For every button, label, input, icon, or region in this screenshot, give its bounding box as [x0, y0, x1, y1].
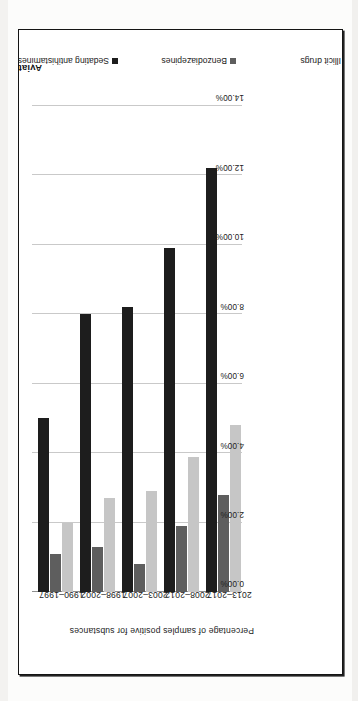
bar: [122, 307, 133, 592]
bar: [230, 425, 241, 592]
plot-area: [32, 106, 242, 592]
legend-swatch-icon: [112, 58, 118, 64]
value-axis-tick-label: 8.00%: [220, 302, 244, 311]
bar-group: [32, 106, 74, 592]
value-axis-tick-label: 10.00%: [215, 232, 243, 241]
legend-item[interactable]: Illicit drugs: [300, 56, 341, 66]
bar: [80, 314, 91, 592]
page-edge-left: [0, 0, 8, 701]
bar-group: [158, 106, 200, 592]
bar: [176, 526, 187, 592]
bar: [62, 523, 73, 592]
bar-group: [116, 106, 158, 592]
category-axis-label: 1998–2002: [81, 590, 126, 600]
value-axis-title: Percentage of samples positive for subst…: [18, 626, 254, 636]
category-axis-label: 2003–2007: [123, 590, 168, 600]
value-axis-tick-label: 2.00%: [220, 510, 244, 519]
bar: [188, 457, 199, 592]
legend-label: Sedating antihistamines: [18, 56, 109, 66]
chart-stage: 0.00%2.00%4.00%6.00%8.00%10.00%12.00%14.…: [22, 36, 338, 666]
bar: [92, 547, 103, 592]
page-edge-right: [352, 0, 358, 701]
category-axis-label: 1990–1997: [39, 590, 84, 600]
chart-legend: Sedating antihistaminesBenzodiazepinesIl…: [118, 29, 342, 66]
legend-item[interactable]: Benzodiazepines: [161, 56, 235, 66]
bar: [104, 498, 115, 592]
legend-label: Benzodiazepines: [161, 56, 226, 66]
bar: [146, 491, 157, 592]
bar-group: [74, 106, 116, 592]
value-axis-tick-label: 12.00%: [215, 163, 243, 172]
bar: [134, 564, 145, 592]
value-axis-tick-label: 6.00%: [220, 371, 244, 380]
rotated-chart-wrapper: 0.00%2.00%4.00%6.00%8.00%10.00%12.00%14.…: [18, 29, 341, 673]
bar: [164, 248, 175, 592]
bar-group: [200, 106, 242, 592]
category-axis-label: 2013–2017: [207, 590, 252, 600]
legend-item[interactable]: Sedating antihistamines: [18, 56, 118, 66]
legend-label: Illicit drugs: [300, 56, 341, 66]
value-axis-ticks: 0.00%2.00%4.00%6.00%8.00%10.00%12.00%14.…: [244, 106, 288, 592]
value-axis-tick-label: 14.00%: [215, 94, 243, 103]
value-axis-tick-label: 4.00%: [220, 441, 244, 450]
bar: [50, 554, 61, 592]
bar: [38, 418, 49, 592]
category-axis-label: 2008–2012: [165, 590, 210, 600]
value-axis-tick-label: 0.00%: [220, 580, 244, 589]
legend-swatch-icon: [230, 58, 236, 64]
scanned-page: 0.00%2.00%4.00%6.00%8.00%10.00%12.00%14.…: [0, 0, 358, 701]
